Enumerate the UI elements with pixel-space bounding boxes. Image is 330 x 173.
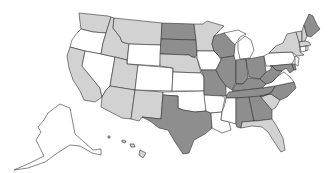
state-KS[interactable]: [172, 72, 204, 91]
state-CO[interactable]: [135, 65, 173, 91]
state-FL[interactable]: [241, 119, 285, 152]
map-svg: [0, 0, 330, 173]
state-ME[interactable]: [304, 14, 320, 37]
state-NJ[interactable]: [295, 56, 299, 66]
state-AR[interactable]: [204, 95, 225, 113]
state-AZ[interactable]: [101, 86, 135, 119]
state-AK[interactable]: [14, 104, 101, 170]
state-CT[interactable]: [300, 46, 306, 52]
state-NM[interactable]: [131, 90, 163, 121]
state-WY[interactable]: [127, 44, 161, 66]
us-choropleth-map: [0, 0, 330, 173]
state-HI[interactable]: [108, 136, 146, 158]
state-RI[interactable]: [306, 46, 308, 51]
state-ND[interactable]: [161, 23, 196, 40]
